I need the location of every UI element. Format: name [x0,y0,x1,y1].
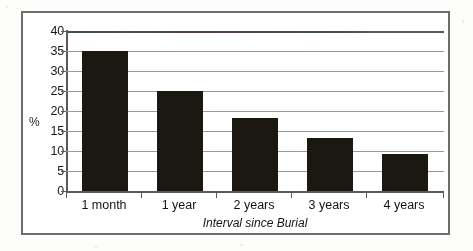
x-category-label-1-year: 1 year [141,198,217,212]
x-category-label-2-years: 2 years [216,198,292,212]
y-tick-mark [61,31,66,32]
plot-area [66,31,444,192]
y-tick-mark [61,71,66,72]
bar-1-year [157,91,203,192]
paper-speckle [240,244,243,246]
y-tick-mark [61,51,66,52]
y-tick-mark [61,151,66,152]
paper-speckle [6,6,8,8]
y-axis-title: % [29,115,40,129]
y-tick-mark [61,171,66,172]
bar-3-years [307,138,353,192]
x-category-label-3-years: 3 years [291,198,367,212]
x-axis-title: Interval since Burial [66,216,444,230]
paper-speckle [462,20,464,23]
paper-speckle [95,246,97,248]
chart-figure: 40 35 30 25 20 15 10 5 0 % [0,0,473,251]
x-category-label-4-years: 4 years [366,198,442,212]
bar-1-month [82,51,128,192]
bar-2-years [232,118,278,192]
y-tick-mark [61,131,66,132]
y-tick-mark [61,111,66,112]
y-tick-mark [61,91,66,92]
bar-4-years [382,154,428,192]
x-tick-mark [443,192,444,198]
gridline-40 [66,31,444,33]
x-category-label-1-month: 1 month [66,198,142,212]
